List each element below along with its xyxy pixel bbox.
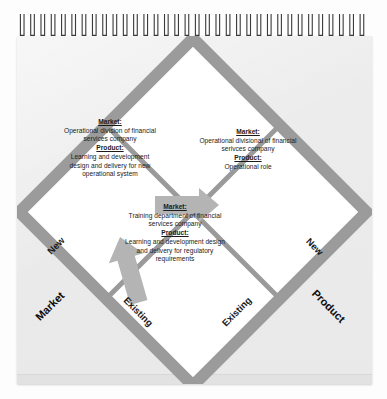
quadrant-left-product-value: Learning and development design and deli… xyxy=(62,153,158,179)
quadrant-right-product-value: Operational role xyxy=(196,163,300,172)
binding-loop xyxy=(288,14,293,36)
binding-loop xyxy=(226,14,231,36)
binding-loop xyxy=(257,14,262,36)
binding-loop xyxy=(277,14,282,36)
binding-loop xyxy=(267,14,272,36)
quadrant-left-product-label: Product: xyxy=(62,144,158,153)
binding-loop xyxy=(360,14,365,36)
binding-loop xyxy=(40,14,45,36)
quadrant-left-market-label: Market: xyxy=(62,118,158,127)
binding-loop xyxy=(236,14,241,36)
quadrant-left-market-value: Operational division of financial servic… xyxy=(62,127,158,144)
binding-loop xyxy=(133,14,138,36)
binding-loop xyxy=(318,14,323,36)
quadrant-bottom-market-label: Market: xyxy=(120,203,230,212)
binding-loop xyxy=(82,14,87,36)
quadrant-bottom-market-value: Training department of financial service… xyxy=(120,212,230,229)
quadrant-bottom-product-label: Product: xyxy=(120,229,230,238)
quadrant-left-text: Market: Operational division of financia… xyxy=(62,118,158,179)
notebook-page: Market: Operational division of financia… xyxy=(0,0,387,399)
binding-loop xyxy=(154,14,159,36)
quadrant-right-market-label: Market: xyxy=(196,128,300,137)
binding-loop xyxy=(185,14,190,36)
binding-loop xyxy=(329,14,334,36)
binding-loop xyxy=(164,14,169,36)
binding-loop xyxy=(20,14,25,36)
binding-loop xyxy=(113,14,118,36)
binding-loop xyxy=(298,14,303,36)
spiral-binding xyxy=(14,6,372,40)
binding-loop xyxy=(339,14,344,36)
binding-loop xyxy=(174,14,179,36)
quadrant-right-text: Market: Operational divisional of financ… xyxy=(196,128,300,172)
binding-loop xyxy=(205,14,210,36)
quadrant-bottom-text: Market: Training department of financial… xyxy=(120,203,230,264)
binding-loop xyxy=(308,14,313,36)
binding-loop xyxy=(349,14,354,36)
quadrant-right-product-label: Product: xyxy=(196,154,300,163)
binding-loop xyxy=(215,14,220,36)
binding-loop xyxy=(246,14,251,36)
binding-loop xyxy=(143,14,148,36)
quadrant-bottom-product-value: Learning and development design and deli… xyxy=(120,238,230,264)
quadrant-right-market-value: Operational divisional of financial seri… xyxy=(196,137,300,154)
binding-loop xyxy=(123,14,128,36)
binding-loop xyxy=(30,14,35,36)
binding-loop xyxy=(51,14,56,36)
binding-loop xyxy=(102,14,107,36)
binding-loop xyxy=(71,14,76,36)
binding-loop xyxy=(195,14,200,36)
binding-loop xyxy=(92,14,97,36)
binding-loop xyxy=(61,14,66,36)
